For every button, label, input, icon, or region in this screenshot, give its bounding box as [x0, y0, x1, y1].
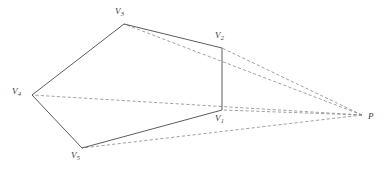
- vertex-label-p-base: P: [368, 111, 374, 121]
- vertex-label-p: P: [368, 112, 374, 121]
- vertex-label-v1: V1: [215, 114, 224, 123]
- edge-v4-v3: [32, 24, 124, 95]
- vertex-label-v2: V2: [215, 31, 224, 40]
- edge-v3-v2: [124, 24, 222, 48]
- sight-line-p-v2: [222, 48, 362, 115]
- edge-v5-v4: [32, 95, 82, 148]
- vertex-label-v5-subscript: 5: [77, 154, 80, 161]
- figure-container: V1 V2 V3 V4 V5 P: [0, 0, 384, 179]
- vertex-label-v1-base: V: [215, 113, 221, 123]
- polygon-edges: [32, 24, 222, 148]
- vertex-label-v3-base: V: [115, 6, 121, 16]
- dashed-sight-lines: [32, 24, 362, 148]
- vertex-label-v5: V5: [71, 151, 80, 160]
- sight-line-p-v1: [222, 110, 362, 115]
- vertex-label-v5-base: V: [71, 150, 77, 160]
- sight-line-p-v4: [32, 95, 362, 115]
- vertex-label-v1-subscript: 1: [221, 117, 224, 124]
- vertex-label-v3: V3: [115, 7, 124, 16]
- edge-v1-v5: [82, 110, 222, 148]
- vertex-label-v3-subscript: 3: [121, 10, 124, 17]
- sight-line-p-v3: [124, 24, 362, 115]
- geometry-canvas: [0, 0, 384, 179]
- vertex-label-v4-base: V: [12, 86, 18, 96]
- vertex-label-v2-subscript: 2: [221, 34, 224, 41]
- vertex-label-v4-subscript: 4: [18, 90, 21, 97]
- vertex-label-v4: V4: [12, 87, 21, 96]
- vertex-label-v2-base: V: [215, 30, 221, 40]
